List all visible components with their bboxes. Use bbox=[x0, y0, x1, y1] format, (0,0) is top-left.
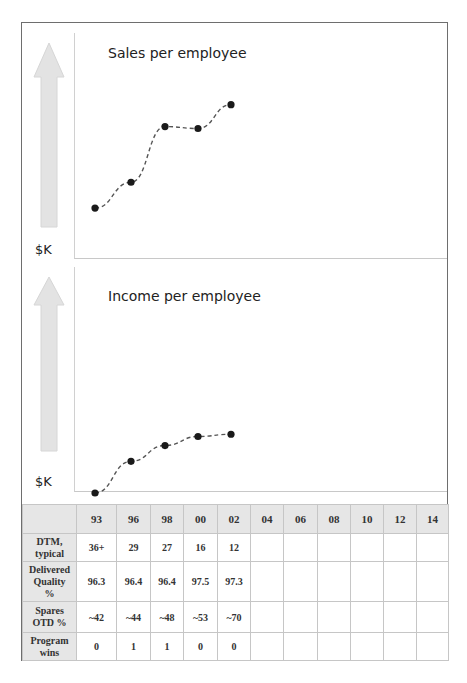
column-header-10: 10 bbox=[351, 505, 384, 534]
table-cell bbox=[318, 562, 351, 602]
data-point-marker bbox=[227, 431, 234, 438]
table-cell bbox=[318, 534, 351, 562]
row-label-line: Spares bbox=[23, 605, 76, 617]
table-cell bbox=[417, 602, 449, 633]
data-point-marker bbox=[227, 101, 234, 108]
row-label: SparesOTD % bbox=[23, 602, 77, 633]
table-cell: 0 bbox=[218, 633, 251, 661]
figure-frame: $K Sales per employee $K Income per empl… bbox=[21, 22, 448, 661]
table-row: Programwins01100 bbox=[23, 633, 449, 661]
table-cell: 0 bbox=[77, 633, 117, 661]
table-cell bbox=[384, 534, 417, 562]
data-point-marker bbox=[194, 125, 201, 132]
column-header-04: 04 bbox=[251, 505, 284, 534]
table-cell: ~48 bbox=[151, 602, 184, 633]
y-unit-label: $K bbox=[35, 242, 52, 257]
income-series bbox=[75, 267, 448, 492]
row-label-line: DTM, bbox=[23, 536, 76, 548]
table-row: DeliveredQuality%96.396.496.497.597.3 bbox=[23, 562, 449, 602]
column-header-06: 06 bbox=[284, 505, 318, 534]
column-header-02: 02 bbox=[218, 505, 251, 534]
column-header-96: 96 bbox=[117, 505, 151, 534]
table-cell bbox=[251, 633, 284, 661]
table-cell bbox=[384, 633, 417, 661]
sales-panel: $K Sales per employee bbox=[22, 23, 447, 259]
table-cell bbox=[251, 534, 284, 562]
table-cell: 96.4 bbox=[117, 562, 151, 602]
row-label: DTM,typical bbox=[23, 534, 77, 562]
table-cell: 97.5 bbox=[184, 562, 218, 602]
metrics-table: 9396980002040608101214 DTM,typical36+292… bbox=[22, 504, 449, 661]
data-point-marker bbox=[91, 489, 98, 496]
data-point-marker bbox=[161, 123, 168, 130]
table-cell bbox=[384, 562, 417, 602]
table-cell: ~70 bbox=[218, 602, 251, 633]
table-cell: 12 bbox=[218, 534, 251, 562]
data-point-marker bbox=[91, 205, 98, 212]
table-cell bbox=[351, 602, 384, 633]
table-cell bbox=[318, 633, 351, 661]
row-label-line: OTD % bbox=[23, 617, 76, 629]
column-header-98: 98 bbox=[151, 505, 184, 534]
table-cell: 1 bbox=[117, 633, 151, 661]
row-label-line: Delivered bbox=[23, 564, 76, 576]
row-label-line: wins bbox=[23, 647, 76, 659]
table-cell bbox=[284, 534, 318, 562]
sales-series bbox=[75, 33, 448, 259]
sales-plot-area: Sales per employee bbox=[74, 33, 447, 259]
table-cell bbox=[417, 562, 449, 602]
row-label-line: Quality bbox=[23, 576, 76, 588]
table-cell: 1 bbox=[151, 633, 184, 661]
row-label: Programwins bbox=[23, 633, 77, 661]
table-header-row: 9396980002040608101214 bbox=[23, 505, 449, 534]
table-cell bbox=[417, 633, 449, 661]
column-header-14: 14 bbox=[417, 505, 449, 534]
table-cell bbox=[351, 534, 384, 562]
column-header-00: 00 bbox=[184, 505, 218, 534]
table-cell bbox=[284, 562, 318, 602]
table-cell: ~42 bbox=[77, 602, 117, 633]
table-row: SparesOTD %~42~44~48~53~70 bbox=[23, 602, 449, 633]
column-header-12: 12 bbox=[384, 505, 417, 534]
table-cell bbox=[351, 562, 384, 602]
table-cell: 97.3 bbox=[218, 562, 251, 602]
table-cell: 96.3 bbox=[77, 562, 117, 602]
row-label-line: % bbox=[23, 588, 76, 600]
corner-cell bbox=[23, 505, 77, 534]
column-header-08: 08 bbox=[318, 505, 351, 534]
table-cell bbox=[384, 602, 417, 633]
table-cell: 36+ bbox=[77, 534, 117, 562]
y-unit-label: $K bbox=[35, 474, 52, 489]
up-arrow-icon bbox=[32, 41, 66, 231]
table-cell bbox=[251, 562, 284, 602]
up-arrow-icon bbox=[32, 275, 66, 455]
series-line bbox=[95, 105, 231, 208]
data-point-marker bbox=[127, 179, 134, 186]
table-cell: 96.4 bbox=[151, 562, 184, 602]
table-cell bbox=[284, 602, 318, 633]
table-cell: 0 bbox=[184, 633, 218, 661]
table-cell: ~44 bbox=[117, 602, 151, 633]
table-cell: 16 bbox=[184, 534, 218, 562]
table-cell bbox=[351, 633, 384, 661]
table-row: DTM,typical36+29271612 bbox=[23, 534, 449, 562]
column-header-93: 93 bbox=[77, 505, 117, 534]
table-cell: 29 bbox=[117, 534, 151, 562]
income-panel: $K Income per employee bbox=[22, 259, 447, 504]
table-cell bbox=[417, 534, 449, 562]
data-point-marker bbox=[127, 458, 134, 465]
table-cell: ~53 bbox=[184, 602, 218, 633]
row-label-line: Program bbox=[23, 635, 76, 647]
table-cell bbox=[284, 633, 318, 661]
table-cell: 27 bbox=[151, 534, 184, 562]
data-point-marker bbox=[194, 433, 201, 440]
table-cell bbox=[251, 602, 284, 633]
row-label: DeliveredQuality% bbox=[23, 562, 77, 602]
row-label-line: typical bbox=[23, 548, 76, 560]
income-plot-area: Income per employee bbox=[74, 267, 447, 492]
table-cell bbox=[318, 602, 351, 633]
data-point-marker bbox=[161, 442, 168, 449]
